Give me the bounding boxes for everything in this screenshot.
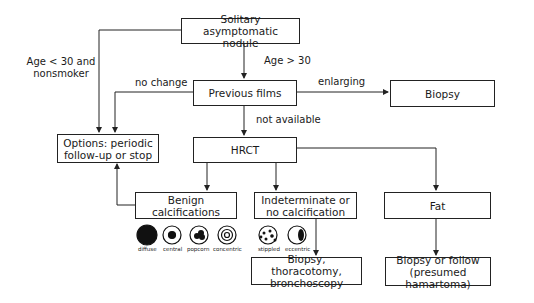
biopsy-thoracotomy-node: Biopsy, thoracotomy, bronchoscopy: [251, 257, 362, 285]
caption-central: central: [163, 246, 182, 252]
biopsy-label: Biopsy: [425, 88, 460, 100]
hrct-node: HRCT: [193, 137, 297, 163]
start-node: Solitary asymptomatic nodule: [181, 18, 300, 44]
caption-concentric: concentric: [213, 246, 242, 252]
biopsy-node: Biopsy: [390, 80, 495, 107]
indeterminate-node: Indeterminate or no calcification: [254, 192, 357, 219]
previous-films-node: Previous films: [193, 80, 297, 106]
biopsy-follow-label: Biopsy or follow (presumed hamartoma): [386, 254, 490, 290]
start-label: Solitary asymptomatic nodule: [191, 13, 291, 49]
fat-node: Fat: [384, 192, 491, 219]
concentric-icon: [218, 226, 236, 244]
caption-diffuse: diffuse: [138, 246, 157, 252]
edge-label-age-lt-30: Age < 30 and nonsmoker: [26, 56, 96, 80]
previous-films-label: Previous films: [209, 87, 282, 99]
edge-label-age-gt-30: Age > 30: [264, 55, 311, 67]
fat-label: Fat: [430, 200, 446, 212]
hrct-label: HRCT: [231, 144, 259, 156]
biopsy-thoracotomy-label: Biopsy, thoracotomy, bronchoscopy: [255, 253, 359, 289]
calcification-icons: [137, 225, 306, 245]
biopsy-follow-node: Biopsy or follow (presumed hamartoma): [385, 257, 491, 286]
edge-label-no-change: no change: [135, 77, 187, 89]
caption-eccentric: eccentric: [285, 246, 310, 252]
benign-label: Benign calcifications: [136, 194, 236, 218]
edge-label-enlarging: enlarging: [318, 76, 365, 88]
options-label: Options: periodic follow-up or stop: [63, 137, 153, 161]
edge-label-not-available: not available: [256, 114, 321, 126]
indeterminate-label: Indeterminate or no calcification: [258, 194, 354, 218]
caption-stippled: stippled: [258, 246, 280, 252]
options-node: Options: periodic follow-up or stop: [57, 134, 159, 163]
caption-popcorn: popcorn: [187, 246, 209, 252]
diffuse-icon: [137, 225, 157, 245]
benign-node: Benign calcifications: [135, 192, 237, 219]
